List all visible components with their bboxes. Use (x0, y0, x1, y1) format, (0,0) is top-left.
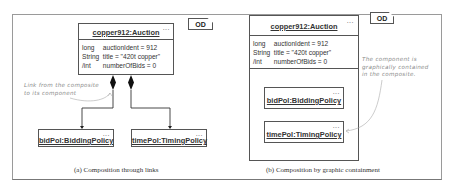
note-pointer (346, 80, 382, 131)
composition-link-timing (131, 90, 170, 128)
composite-diamond-icon (110, 75, 116, 90)
connector-lines (0, 0, 454, 193)
arrowhead-icon (168, 126, 172, 129)
arrowhead-icon (80, 126, 84, 129)
note-pointer (70, 93, 110, 101)
composite-diamond-icon (128, 75, 134, 90)
